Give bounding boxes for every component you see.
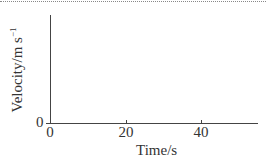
- x-tick-40: [201, 120, 202, 123]
- x-tick-label-20: 20: [111, 124, 141, 141]
- x-tick-20: [126, 120, 127, 123]
- y-axis-label: Velocity/m s−1: [8, 28, 26, 113]
- y-tick-label-0: 0: [36, 114, 44, 131]
- x-tick-label-40: 40: [186, 124, 216, 141]
- y-axis-label-text: Velocity/m s: [9, 37, 25, 112]
- top-dotted-rule: [0, 1, 266, 2]
- y-axis-label-exponent: −1: [8, 28, 18, 38]
- x-axis: [46, 123, 258, 124]
- x-axis-label: Time/s: [136, 142, 177, 159]
- y-axis: [50, 15, 51, 124]
